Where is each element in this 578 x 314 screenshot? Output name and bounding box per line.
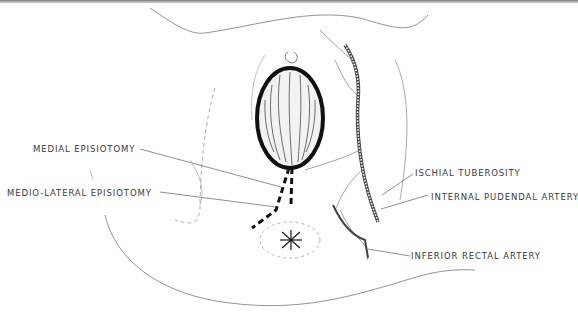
leader-pudendal bbox=[381, 195, 428, 209]
label-internal-pudendal-artery: INTERNAL PUDENDAL ARTERY bbox=[431, 192, 578, 202]
upper-contour bbox=[150, 8, 428, 33]
clitoral-hood bbox=[285, 52, 297, 63]
anus bbox=[280, 230, 302, 250]
anatomy-diagram: MEDIAL EPISIOTOMY MEDIO-LATERAL EPISIOTO… bbox=[0, 0, 578, 314]
leader-inferior-rectal bbox=[368, 249, 410, 256]
label-inferior-rectal-artery: INFERIOR RECTAL ARTERY bbox=[411, 251, 541, 261]
label-medial-episiotomy: MEDIAL EPISIOTOMY bbox=[33, 144, 135, 154]
medio-lateral-episiotomy-line bbox=[252, 168, 289, 228]
leader-medial bbox=[140, 149, 281, 187]
inferior-rectal-artery bbox=[333, 205, 368, 258]
internal-pudendal-artery bbox=[345, 45, 378, 222]
dashed-left-contour bbox=[175, 88, 215, 223]
label-medio-lateral-episiotomy: MEDIO-LATERAL EPISIOTOMY bbox=[7, 188, 152, 198]
left-fold bbox=[190, 160, 202, 205]
leader-ischial bbox=[382, 174, 413, 195]
leader-medio-lateral bbox=[160, 192, 276, 207]
diagram-drawing bbox=[0, 0, 578, 314]
medial-episiotomy-line bbox=[291, 168, 292, 205]
label-ischial-tuberosity: ISCHIAL TUBEROSITY bbox=[415, 168, 521, 178]
